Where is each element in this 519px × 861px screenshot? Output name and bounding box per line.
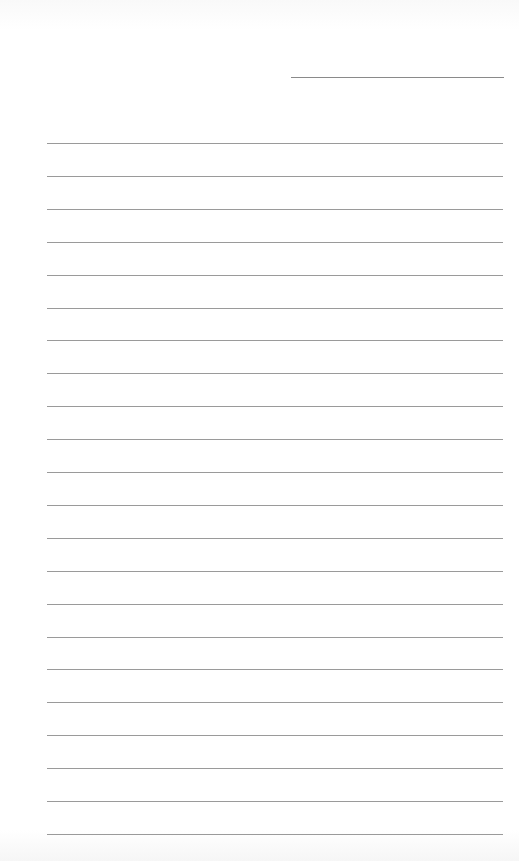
ruled-line (47, 472, 503, 473)
ruled-line (47, 373, 503, 374)
ruled-line (47, 505, 503, 506)
ruled-line (47, 702, 503, 703)
ruled-line (47, 735, 503, 736)
notepaper-page (0, 0, 519, 861)
ruled-line (47, 669, 503, 670)
ruled-line (47, 439, 503, 440)
ruled-line (47, 275, 503, 276)
ruled-line (47, 176, 503, 177)
ruled-line (47, 768, 503, 769)
ruled-line (47, 242, 503, 243)
ruled-line (47, 406, 503, 407)
ruled-lines (0, 0, 519, 861)
ruled-line (47, 308, 503, 309)
ruled-line (47, 571, 503, 572)
ruled-line (47, 801, 503, 802)
ruled-line (47, 834, 503, 835)
ruled-line (47, 604, 503, 605)
ruled-line (47, 538, 503, 539)
ruled-line (47, 143, 503, 144)
ruled-line (47, 209, 503, 210)
ruled-line (47, 637, 503, 638)
ruled-line (47, 340, 503, 341)
